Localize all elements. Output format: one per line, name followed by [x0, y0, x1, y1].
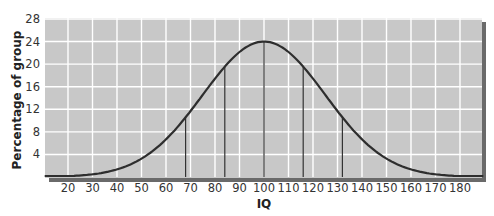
y-tick-label: 24: [25, 35, 40, 49]
y-tick-label: 28: [25, 12, 40, 26]
x-tick-label: 80: [208, 181, 223, 195]
y-tick-label: 4: [33, 147, 40, 161]
y-axis-title: Percentage of group: [10, 30, 24, 169]
y-tick-label: 20: [25, 57, 40, 71]
x-tick-label: 170: [425, 181, 447, 195]
y-tick-label: 12: [25, 102, 40, 116]
x-tick-label: 40: [110, 181, 125, 195]
x-tick-label: 90: [232, 181, 247, 195]
x-tick-label: 180: [449, 181, 471, 195]
x-tick-label: 110: [278, 181, 300, 195]
x-tick-label: 140: [351, 181, 373, 195]
x-tick-label: 60: [159, 181, 174, 195]
y-tick-label: 8: [33, 125, 40, 139]
x-tick-label: 30: [85, 181, 100, 195]
x-axis-title: IQ: [257, 197, 272, 211]
x-tick-label: 50: [134, 181, 149, 195]
x-tick-label: 160: [400, 181, 422, 195]
x-tick-label: 100: [253, 181, 275, 195]
x-tick-label: 130: [327, 181, 349, 195]
y-tick-label: 16: [25, 80, 40, 94]
y-axis-ticks: 481216202428: [25, 12, 40, 161]
x-tick-label: 20: [61, 181, 76, 195]
x-tick-label: 150: [376, 181, 398, 195]
x-tick-label: 70: [183, 181, 198, 195]
x-axis-ticks: 2030405060708090100110120130140150160170…: [61, 181, 471, 195]
x-tick-label: 120: [302, 181, 324, 195]
iq-distribution-chart: 481216202428 203040506070809010011012013…: [0, 0, 494, 216]
